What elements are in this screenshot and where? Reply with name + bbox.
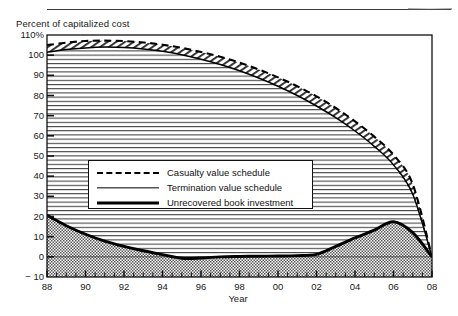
x-tick-label: 98 [225,281,255,292]
x-axis-title: Year [0,293,458,304]
plot-area [0,0,458,316]
x-tick-label: 08 [417,281,447,292]
x-tick-label: 92 [109,281,139,292]
chart-figure: Percent of capitalized cost 110%10090807… [0,0,458,316]
x-tick-label: 02 [302,281,332,292]
x-tick-label: 96 [186,281,216,292]
legend-item: Termination value schedule [89,180,312,195]
legend-swatch-thin-solid-icon [97,182,159,194]
x-axis-title-text: Year [228,293,247,304]
x-tick-label: 00 [263,281,293,292]
x-tick-label: 88 [32,281,62,292]
legend-item: Unrecovered book investment [89,195,312,210]
legend-label: Termination value schedule [159,182,282,193]
x-tick-label: 06 [379,281,409,292]
chart-legend: Casualty value scheduleTermination value… [88,160,313,209]
x-tick-label: 94 [148,281,178,292]
legend-label: Casualty value schedule [159,167,270,178]
x-tick-label: 90 [71,281,101,292]
legend-item: Casualty value schedule [89,165,312,180]
legend-swatch-dashed-icon [97,167,159,179]
x-tick-label: 04 [340,281,370,292]
legend-swatch-thick-solid-icon [97,197,159,209]
legend-label: Unrecovered book investment [159,197,293,208]
